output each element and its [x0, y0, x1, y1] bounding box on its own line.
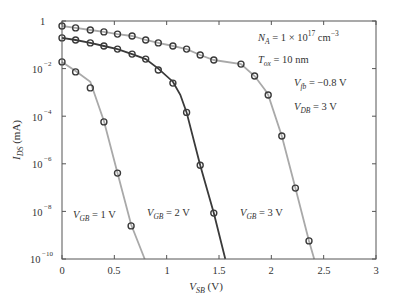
label-vgb-3: VGB = 3 V	[240, 207, 283, 221]
annotation-vfb: Vfb = −0.8 V	[294, 77, 347, 91]
annotation-vdb: VDB = 3 V	[294, 101, 337, 115]
x-tick-2.5: 2.5	[317, 265, 330, 276]
label-vgb-1: VGB = 1 V	[73, 209, 116, 223]
annotation-tox: Tox = 10 nm	[258, 54, 309, 68]
y-tick-1e-8: 10−8	[32, 203, 52, 218]
x-tick-3: 3	[373, 265, 378, 276]
svg-text:10: 10	[32, 64, 43, 75]
y-tick-1e-4: 10−4	[32, 108, 52, 123]
svg-text:10: 10	[32, 159, 43, 170]
y-tick-1e-6: 10−6	[32, 155, 52, 170]
y-tick-1: 1	[40, 16, 45, 27]
series-line-2	[62, 38, 225, 259]
svg-text:10: 10	[30, 254, 41, 265]
svg-text:−10: −10	[42, 250, 53, 258]
x-tick-1: 1	[164, 265, 169, 276]
x-tick-0: 0	[59, 265, 64, 276]
svg-text:10: 10	[32, 207, 43, 218]
svg-text:−4: −4	[44, 108, 52, 116]
y-tick-1e-10: 10−10	[30, 250, 53, 265]
iv-chart: 0 0.5 1 1.5 2 2.5 3 1 10−2 10−4 10−6 10−…	[0, 0, 393, 303]
x-tick-2: 2	[268, 265, 273, 276]
svg-text:−8: −8	[44, 203, 52, 211]
svg-text:−6: −6	[44, 155, 52, 163]
label-vgb-2: VGB = 2 V	[147, 207, 190, 221]
y-tick-1e-2: 10−2	[32, 60, 52, 75]
y-axis-title: IDS (mA)	[10, 120, 25, 161]
x-tick-0.5: 0.5	[107, 265, 120, 276]
svg-text:10: 10	[32, 112, 43, 123]
annotation-na: NA = 1 × 1017 cm−3	[257, 29, 339, 46]
x-tick-1.5: 1.5	[212, 265, 225, 276]
svg-text:−2: −2	[44, 60, 52, 68]
series-line-1	[62, 62, 145, 259]
x-axis-title: VSB (V)	[189, 280, 223, 295]
